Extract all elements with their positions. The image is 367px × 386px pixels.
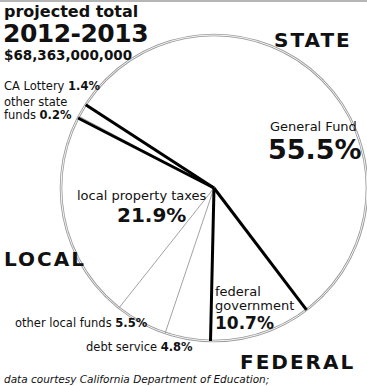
slice-label-ca-lottery: CA Lottery 1.4% — [4, 80, 100, 92]
chart-total: $68,363,000,000 — [4, 48, 132, 62]
divider-federal-government — [211, 188, 215, 341]
region-label-state: STATE — [274, 30, 352, 51]
slice-value-federal-government: 10.7% — [215, 315, 274, 333]
source-note: data courtesy California Department of E… — [4, 374, 269, 385]
divider-local-property-taxes — [78, 118, 214, 188]
other-local-name: other local funds — [15, 316, 115, 330]
other-local-value: 5.5% — [115, 316, 147, 330]
slice-label-federal-government: federal government — [215, 285, 294, 314]
debt-service-value: 4.8% — [161, 340, 193, 354]
slice-value-general-fund: 55.5% — [268, 136, 362, 164]
lottery-value: 1.4% — [68, 79, 100, 93]
other-state-line-2: funds — [4, 108, 40, 122]
slice-value-local-property-taxes: 21.9% — [117, 205, 186, 226]
divider-start — [86, 105, 214, 188]
other-state-value: 0.2% — [40, 108, 72, 122]
region-label-local: LOCAL — [4, 249, 86, 270]
slice-label-other-state-funds: other state funds 0.2% — [4, 96, 71, 121]
region-label-federal: FEDERAL — [240, 352, 355, 373]
debt-service-name: debt service — [86, 340, 161, 354]
federal-line-1: federal — [215, 284, 261, 299]
lottery-name: CA Lottery — [4, 79, 68, 93]
slice-label-general-fund: General Fund — [270, 120, 357, 134]
slice-label-debt-service: debt service 4.8% — [86, 341, 193, 353]
federal-line-2: government — [215, 298, 294, 313]
slice-label-other-local-funds: other local funds 5.5% — [15, 317, 147, 329]
slice-label-local-property-taxes: local property taxes — [77, 189, 206, 203]
chart-title-year: 2012-2013 — [3, 21, 148, 47]
